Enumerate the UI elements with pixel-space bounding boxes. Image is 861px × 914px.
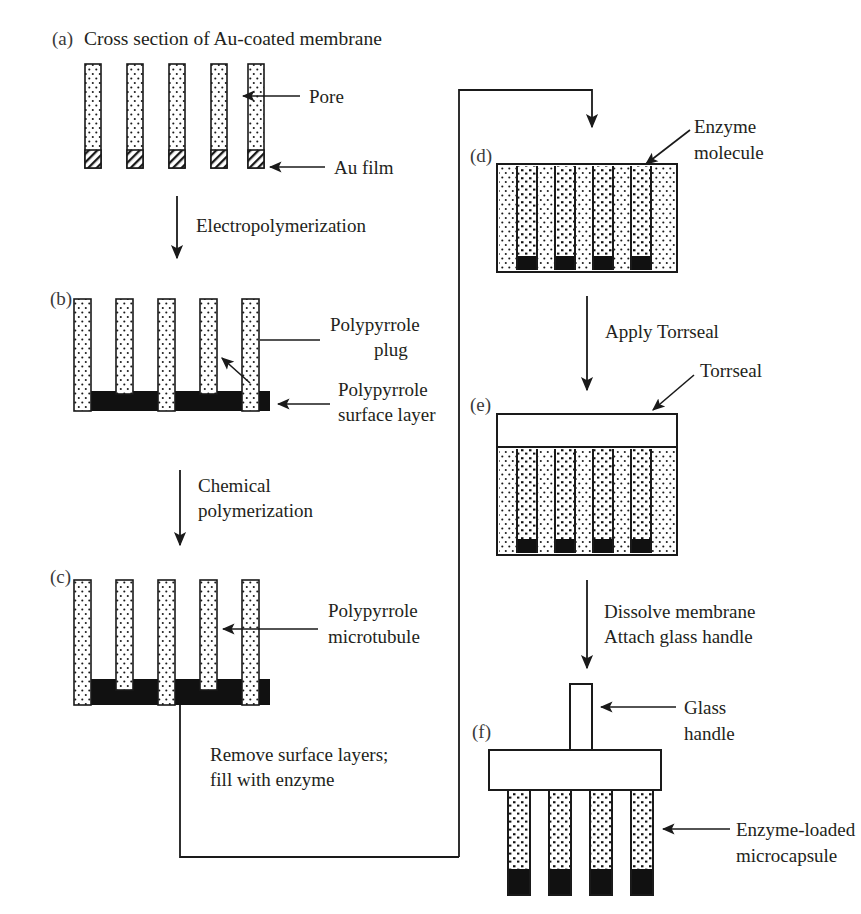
enzyme-molecule-callout: Enzyme molecule <box>646 116 764 164</box>
au-film-callout: Au film <box>270 157 394 178</box>
membrane-wall <box>575 166 593 270</box>
polypyrrole-plug-base <box>555 539 575 553</box>
polypyrrole-microtubule-label-line1: Polypyrrole <box>328 600 418 621</box>
enzyme-channel <box>593 166 613 270</box>
au-film-label: Au film <box>334 157 394 178</box>
torrseal-cap <box>497 414 677 447</box>
polypyrrole-plug-base <box>631 539 651 553</box>
membrane-bar <box>248 64 264 168</box>
polypyrrole-plug-base <box>593 256 613 270</box>
membrane-wall <box>613 166 631 270</box>
microcapsule-label-line2: microcapsule <box>736 845 837 866</box>
torrseal-callout: Torrseal <box>653 360 762 410</box>
enzyme-channel <box>555 166 575 270</box>
polypyrrole-plug-label-line1: Polypyrrole <box>330 314 420 335</box>
membrane-bar <box>127 64 143 168</box>
step-chemical-polymerization: Chemical polymerization <box>180 470 314 545</box>
membrane-wall <box>613 449 631 553</box>
apply-torrseal-label: Apply Torrseal <box>605 321 719 342</box>
polypyrrole-plug-base <box>555 256 575 270</box>
panel-d-stack <box>497 164 677 272</box>
polypyrrole-plug <box>242 299 259 411</box>
panel-a: (a) Cross section of Au-coated membrane <box>52 28 394 178</box>
torrseal-slab <box>489 750 661 790</box>
panel-f: (f) Glass handle Enzyme-loaded microcaps <box>472 684 856 895</box>
polypyrrole-plug-label-line2: plug <box>374 339 408 360</box>
glass-handle-label-line2: handle <box>684 723 735 744</box>
microcapsule-plug <box>631 869 653 895</box>
enzyme-channel <box>517 449 537 553</box>
polypyrrole-microtubule <box>242 580 259 705</box>
panel-c-label: (c) <box>50 566 71 588</box>
step-electropolymerization: Electropolymerization <box>177 196 366 258</box>
panel-a-label: (a) <box>52 28 73 50</box>
polypyrrole-plug-base <box>593 539 613 553</box>
membrane-bar <box>169 64 185 168</box>
microcapsule-plug <box>590 869 612 895</box>
remove-label-line1: Remove surface layers; <box>210 744 388 765</box>
step-dissolve-membrane: Dissolve membrane Attach glass handle <box>587 580 755 668</box>
polypyrrole-microtubule-label-line2: microtubule <box>328 626 420 647</box>
panel-c: (c) Polypyrrole microtubule <box>50 566 420 705</box>
panel-e: (e) Torrseal <box>470 360 762 555</box>
membrane-wall <box>575 449 593 553</box>
enzyme-molecule-label-line1: Enzyme <box>694 116 756 137</box>
glass-handle-label-line1: Glass <box>684 697 726 718</box>
polypyrrole-plug <box>200 299 217 394</box>
enzyme-channel <box>631 449 651 553</box>
torrseal-leader-line <box>653 375 694 410</box>
polypyrrole-microtubule <box>200 580 217 690</box>
polypyrrole-plug-base <box>631 256 651 270</box>
polypyrrole-surface-callout: Polypyrrole surface layer <box>278 379 436 425</box>
microcapsule-plug <box>508 869 530 895</box>
panel-b: (b) Polypyrrole plug Polypyrrole surface… <box>50 288 436 425</box>
au-film-segment <box>248 150 264 168</box>
membrane-wall <box>499 166 517 270</box>
panel-a-membrane-bars <box>85 64 264 168</box>
polypyrrole-plug-base <box>517 539 537 553</box>
enzyme-channel <box>593 449 613 553</box>
panel-a-title: Cross section of Au-coated membrane <box>84 28 382 49</box>
panel-f-microcapsules <box>508 790 653 895</box>
membrane-wall <box>537 449 555 553</box>
enzyme-channel <box>631 166 651 270</box>
microcapsule-label-line1: Enzyme-loaded <box>736 819 856 840</box>
panel-e-stack <box>497 447 677 555</box>
electropolymerization-label: Electropolymerization <box>196 215 366 236</box>
figure-canvas: (a) Cross section of Au-coated membrane <box>0 0 861 914</box>
au-film-segment <box>211 150 227 168</box>
pore-label: Pore <box>309 86 344 107</box>
membrane-wall <box>651 449 675 553</box>
dissolve-label-line2: Attach glass handle <box>604 626 753 647</box>
au-film-segment <box>127 150 143 168</box>
polypyrrole-surface-label-line1: Polypyrrole <box>338 379 428 400</box>
enzyme-leader-line <box>646 130 690 164</box>
torrseal-label: Torrseal <box>700 360 762 381</box>
dissolve-label-line1: Dissolve membrane <box>604 601 755 622</box>
enzyme-channel <box>555 449 575 553</box>
remove-label-line2: fill with enzyme <box>210 769 335 790</box>
membrane-wall <box>499 449 517 553</box>
panel-d: (d) <box>470 116 764 272</box>
polypyrrole-plug <box>158 299 175 411</box>
polypyrrole-plug <box>116 299 133 394</box>
membrane-bar <box>85 64 101 168</box>
au-film-segment <box>85 150 101 168</box>
polypyrrole-microtubule <box>158 580 175 705</box>
membrane-wall <box>651 166 675 270</box>
polypyrrole-plug-base <box>517 256 537 270</box>
membrane-bar <box>211 64 227 168</box>
panel-b-label: (b) <box>50 288 72 310</box>
polypyrrole-plug <box>74 299 91 411</box>
microcapsule-callout: Enzyme-loaded microcapsule <box>663 819 856 866</box>
glass-handle <box>570 684 592 752</box>
chemical-label-line2: polymerization <box>198 500 314 521</box>
panel-f-label: (f) <box>472 721 491 743</box>
panel-d-label: (d) <box>470 145 492 167</box>
membrane-wall <box>537 166 555 270</box>
microcapsule-plug <box>549 869 571 895</box>
polypyrrole-microtubule <box>116 580 133 690</box>
polypyrrole-surface-label-line2: surface layer <box>338 404 436 425</box>
polypyrrole-microtubule <box>74 580 91 705</box>
process-flow-diagram: (a) Cross section of Au-coated membrane <box>0 0 861 914</box>
